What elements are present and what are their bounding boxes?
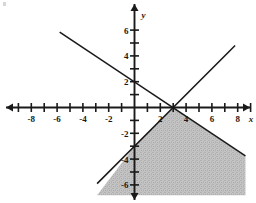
y-tick-label: 2 xyxy=(124,77,129,87)
x-tick-label: -4 xyxy=(79,114,87,124)
x-tick-label: 6 xyxy=(210,114,215,124)
y-tick-label: -2 xyxy=(121,129,129,139)
x-tick-label: 4 xyxy=(184,114,189,124)
shaded-solution-region xyxy=(97,108,245,196)
x-axis-label: x xyxy=(248,114,254,124)
y-tick-label: 4 xyxy=(124,51,129,61)
y-tick-label: -4 xyxy=(121,155,129,165)
x-tick-label: -6 xyxy=(53,114,61,124)
y-tick-label: 6 xyxy=(124,26,129,36)
graph-figure: -8-6-4-22468-6-4-2246xy xyxy=(0,0,256,203)
x-tick-label: -2 xyxy=(105,114,113,124)
y-axis-label: y xyxy=(141,10,147,20)
y-tick-label: -6 xyxy=(121,180,129,190)
corner-speck xyxy=(3,2,6,6)
coordinate-plane: -8-6-4-22468-6-4-2246xy xyxy=(0,0,256,203)
x-tick-label: 2 xyxy=(158,114,163,124)
x-tick-label: 8 xyxy=(235,114,240,124)
x-tick-label: -8 xyxy=(28,114,36,124)
